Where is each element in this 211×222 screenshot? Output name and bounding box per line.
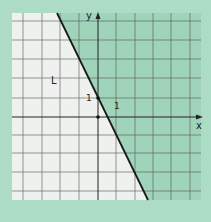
region-label: L bbox=[51, 75, 57, 86]
tick-label-y-1: 1 bbox=[86, 93, 92, 103]
inequality-graph: y x 1 1 L bbox=[0, 0, 211, 222]
tick-label-x-1: 1 bbox=[114, 101, 120, 111]
point-0-1 bbox=[96, 96, 100, 100]
graph-canvas: y x 1 1 L bbox=[0, 0, 211, 222]
point-origin bbox=[96, 115, 100, 119]
y-axis-label: y bbox=[86, 10, 92, 21]
x-axis-label: x bbox=[196, 120, 202, 131]
